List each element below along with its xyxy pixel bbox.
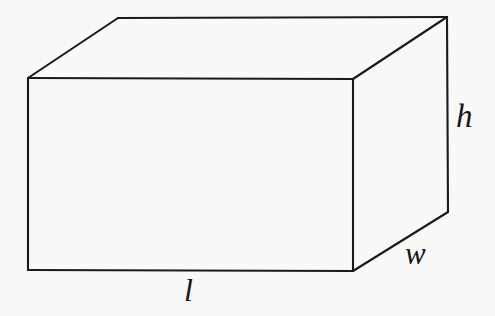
front-face xyxy=(28,78,353,271)
top-back-right-edge xyxy=(353,17,447,79)
front-bottom-edge xyxy=(28,270,353,271)
bottom-back-right-edge xyxy=(353,212,448,271)
front-top-edge xyxy=(28,78,353,79)
height-label: h xyxy=(456,100,473,133)
top-back-edge xyxy=(118,17,447,18)
top-back-left-edge xyxy=(28,18,118,78)
right-face-group xyxy=(353,17,448,271)
right-face xyxy=(353,17,448,271)
right-back-vertical-edge xyxy=(447,17,448,212)
top-face xyxy=(28,17,447,79)
width-label: w xyxy=(405,238,426,269)
box-diagram-figure: h w l xyxy=(0,0,495,316)
top-face-group xyxy=(28,17,447,79)
front-face-group xyxy=(28,78,353,271)
length-label: l xyxy=(184,274,193,306)
